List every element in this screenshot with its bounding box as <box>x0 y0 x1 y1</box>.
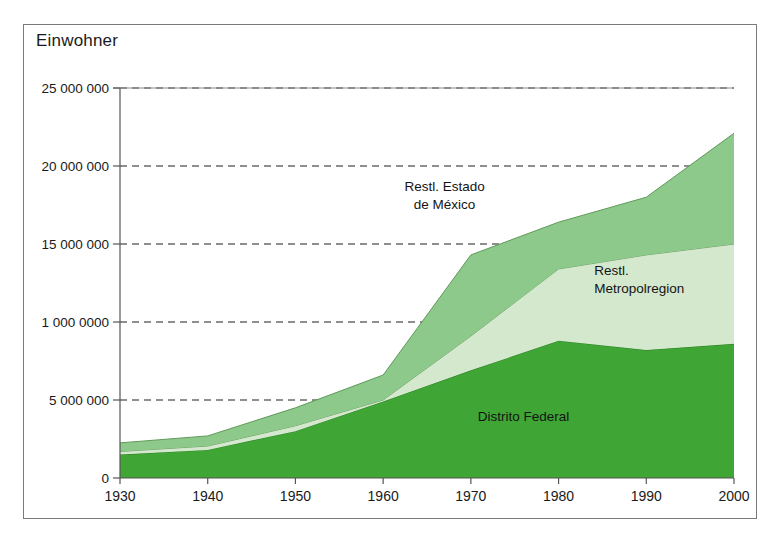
x-tick-label: 1990 <box>631 488 662 504</box>
y-tick-label: 0 <box>101 471 109 486</box>
x-tick-label: 1940 <box>192 488 223 504</box>
x-tick-label: 1950 <box>280 488 311 504</box>
x-tick-label: 1960 <box>368 488 399 504</box>
x-tick-label: 1980 <box>543 488 574 504</box>
y-tick-label: 25 000 000 <box>41 81 109 96</box>
y-tick-label: 1 000 0000 <box>41 315 109 330</box>
series-label-restl-estado-de-mexico: Restl. Estado de México <box>404 178 484 214</box>
series-label-restl-metropolregion: Restl. Metropolregion <box>594 262 684 298</box>
y-tick-label: 15 000 000 <box>41 237 109 252</box>
series-label-middle-line2: Metropolregion <box>594 280 684 298</box>
y-tick-label: 5 000 000 <box>49 393 109 408</box>
chart-figure: Einwohner 05 000 0001 000 000015 000 000… <box>0 0 782 536</box>
series-label-upper-line1: Restl. Estado <box>404 178 484 196</box>
x-tick-label: 2000 <box>718 488 749 504</box>
x-tick-label: 1930 <box>104 488 135 504</box>
series-label-upper-line2: de México <box>404 196 484 214</box>
series-label-middle-line1: Restl. <box>594 262 684 280</box>
series-label-distrito-federal: Distrito Federal <box>478 408 570 426</box>
x-tick-label: 1970 <box>455 488 486 504</box>
y-tick-label: 20 000 000 <box>41 159 109 174</box>
